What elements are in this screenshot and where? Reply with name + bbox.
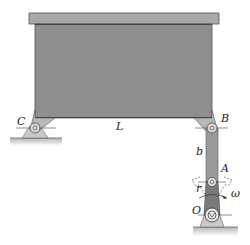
omega-arrowhead [222, 195, 227, 199]
ground-o [193, 227, 238, 236]
pin-o [205, 208, 219, 222]
link-ab [206, 128, 218, 182]
label-a: A [221, 163, 229, 174]
label-o: O [192, 205, 201, 216]
label-r: r [196, 183, 201, 194]
mechanism-diagram [0, 0, 250, 245]
label-omega: ω [231, 188, 240, 199]
box-lid [29, 13, 219, 24]
pin-b [207, 123, 217, 133]
diagram-stage: C L B b A r ω O [0, 0, 250, 245]
box-body [35, 24, 212, 118]
label-b-point: B [221, 113, 229, 124]
pin-c [30, 123, 40, 133]
ground-left [10, 138, 62, 146]
label-l: L [116, 121, 123, 132]
label-c: C [17, 116, 25, 127]
pin-a [208, 178, 217, 187]
label-b-length: b [196, 146, 203, 157]
